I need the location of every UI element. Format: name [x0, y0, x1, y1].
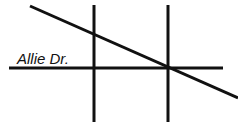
street-label: Allie Dr.: [17, 51, 69, 67]
